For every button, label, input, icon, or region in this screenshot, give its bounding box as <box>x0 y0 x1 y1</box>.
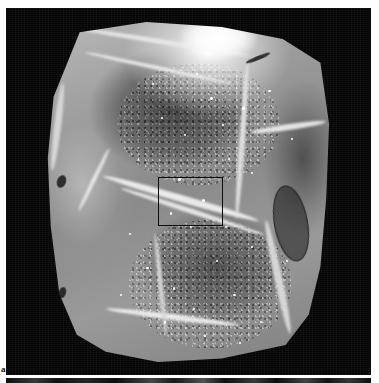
calcification-pinpoint <box>242 107 245 110</box>
calcification-pinpoint <box>251 172 253 174</box>
next-panel-image-strip <box>6 378 371 383</box>
calcification-pinpoint <box>193 308 195 310</box>
calcification-pinpoint <box>251 246 253 248</box>
calcification-pinpoint <box>129 233 131 235</box>
next-figure-panel-sliver[interactable] <box>6 378 371 383</box>
trabecular-speckle-upper <box>117 63 279 185</box>
calcification-pinpoint <box>173 287 176 290</box>
calcification-pinpoint <box>146 267 148 269</box>
calcification-pinpoint <box>152 83 154 85</box>
panel-letter-label: a <box>1 365 6 374</box>
calcification-pinpoint <box>196 73 198 75</box>
anatomical-photograph[interactable] <box>6 8 371 375</box>
region-of-interest-rectangle[interactable] <box>158 177 223 226</box>
figure-page: a <box>0 0 379 383</box>
calcification-pinpoint <box>239 342 241 344</box>
calcification-pinpoint <box>228 158 230 160</box>
calcification-pinpoint <box>210 97 213 100</box>
calcification-pinpoint <box>164 321 166 323</box>
calcification-pinpoint <box>233 294 235 296</box>
calcification-pinpoint <box>222 124 224 126</box>
